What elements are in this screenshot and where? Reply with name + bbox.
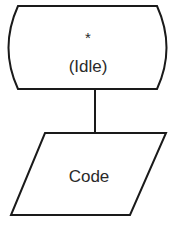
state-node[interactable]: * (Idle) <box>9 6 167 89</box>
io-node-label: Code <box>69 167 110 186</box>
state-node-symbol: * <box>85 29 91 46</box>
state-node-shape <box>9 6 167 89</box>
diagram-canvas: * (Idle) Code <box>0 0 175 232</box>
io-node[interactable]: Code <box>11 133 166 215</box>
state-node-label: (Idle) <box>69 57 108 76</box>
